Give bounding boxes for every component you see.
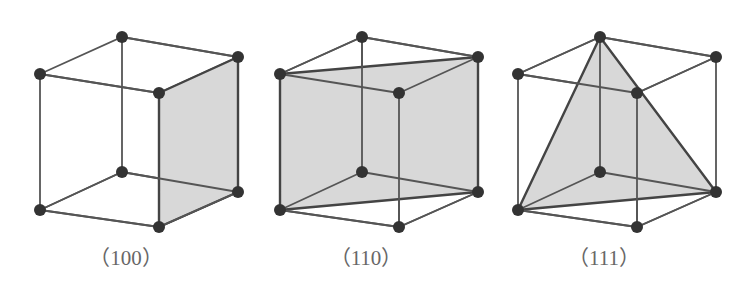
atom-vertex xyxy=(512,204,524,216)
atom-vertex xyxy=(594,166,606,178)
cube-diagram-100 xyxy=(0,0,252,245)
atom-vertex xyxy=(116,166,128,178)
plane-100 xyxy=(159,57,238,227)
atom-vertex xyxy=(153,221,165,233)
atom-vertex xyxy=(356,31,368,43)
figure-root: （100） xyxy=(0,0,756,291)
cube-diagram-111 xyxy=(478,0,730,245)
atom-vertex xyxy=(631,221,643,233)
caption-111: （111） xyxy=(478,243,730,273)
atom-vertex xyxy=(710,186,722,198)
cube-figure-110: （110） xyxy=(240,0,492,291)
cube-figure-100: （100） xyxy=(0,0,252,291)
atom-vertex xyxy=(356,166,368,178)
cube-figure-111: （111） xyxy=(478,0,730,291)
atom-vertex xyxy=(153,87,165,99)
atom-vertex xyxy=(393,221,405,233)
caption-110: （110） xyxy=(240,243,492,273)
atom-vertex xyxy=(393,87,405,99)
atom-vertex xyxy=(34,68,46,80)
atom-vertex xyxy=(710,51,722,63)
atom-vertex xyxy=(116,31,128,43)
atom-vertex xyxy=(512,68,524,80)
caption-100: （100） xyxy=(0,243,252,273)
atom-vertex xyxy=(34,204,46,216)
atom-vertex xyxy=(631,87,643,99)
plane-111 xyxy=(518,37,716,210)
atom-vertex xyxy=(594,31,606,43)
atom-vertex xyxy=(274,68,286,80)
atom-vertex xyxy=(274,204,286,216)
cube-diagram-110 xyxy=(240,0,492,245)
